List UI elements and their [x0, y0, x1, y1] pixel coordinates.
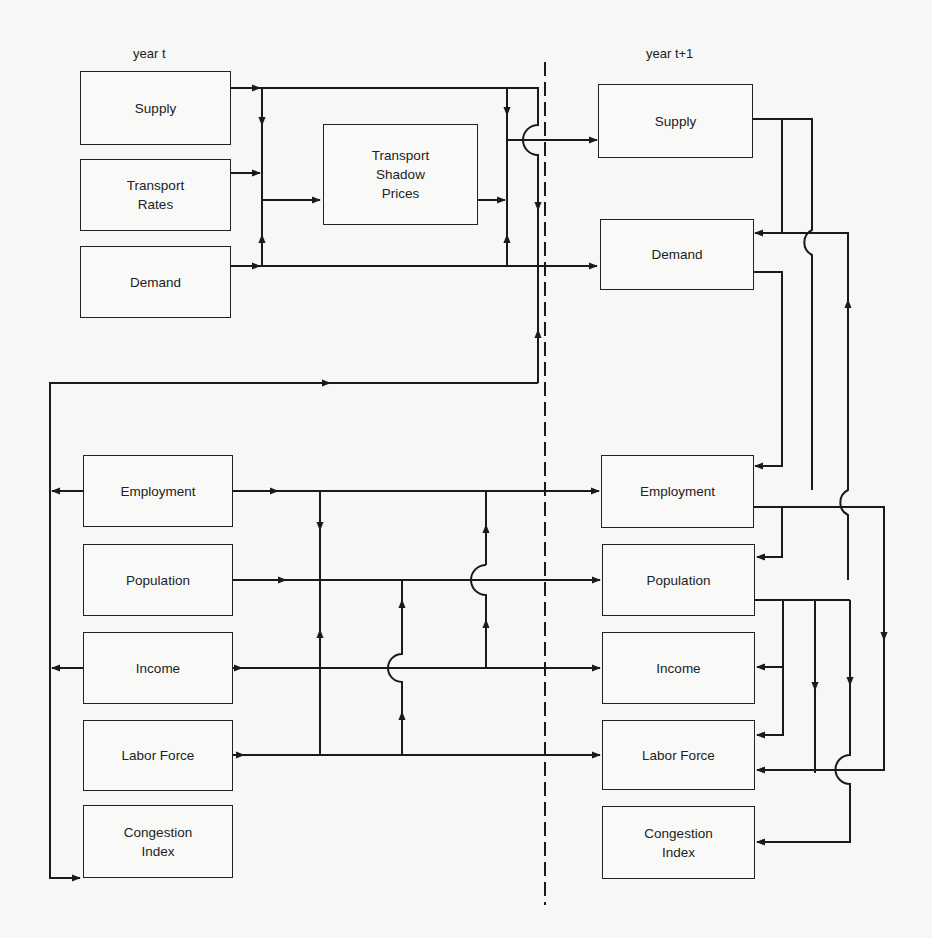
flow-diagram: year t year t+1 Supply Transport Rates D…: [0, 0, 932, 938]
connector-lines: [0, 0, 932, 938]
